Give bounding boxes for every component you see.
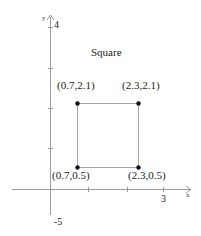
vertex-top-left xyxy=(75,101,79,105)
coordinate-plane xyxy=(0,0,201,236)
point-label-top-left: (0.7,2.1) xyxy=(57,80,95,91)
vertex-top-right xyxy=(136,101,140,105)
diagram-title: Square xyxy=(91,47,122,58)
x-tick-label: 3 xyxy=(161,193,166,204)
point-label-top-right: (2.3,2.1) xyxy=(122,80,160,91)
y-top-tick-label: 4 xyxy=(54,19,59,30)
point-label-bottom-left: (0.7,0.5) xyxy=(52,170,90,181)
x-axis-label: x xyxy=(186,192,190,199)
y-axis-label: y xyxy=(42,15,46,22)
square-shape xyxy=(78,104,139,168)
y-bottom-tick-label: -5 xyxy=(54,216,62,227)
point-label-bottom-right: (2.3,0.5) xyxy=(128,170,166,181)
